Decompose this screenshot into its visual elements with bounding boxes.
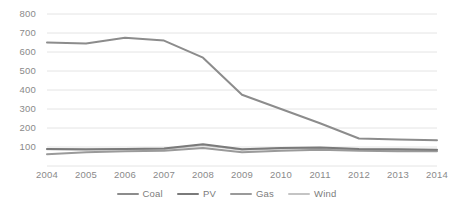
x-axis-tick-label: 2012 — [348, 170, 370, 180]
y-axis: 100200300400500600700800 — [0, 14, 42, 166]
x-axis-tick-label: 2006 — [114, 170, 136, 180]
y-axis-tick-label: 100 — [20, 142, 36, 152]
chart-legend: CoalPVGasWind — [0, 189, 453, 199]
legend-label: PV — [203, 189, 216, 199]
x-axis-tick-label: 2011 — [309, 170, 330, 180]
series-line-coal — [47, 38, 437, 141]
line-chart: 100200300400500600700800 200420052006200… — [0, 0, 453, 211]
y-axis-tick-label: 700 — [20, 28, 36, 38]
legend-label: Coal — [143, 189, 163, 199]
legend-swatch-pv-icon — [177, 193, 199, 196]
legend-item-coal[interactable]: Coal — [117, 189, 163, 199]
x-axis-tick-label: 2010 — [270, 170, 292, 180]
x-axis-tick-label: 2007 — [153, 170, 175, 180]
x-axis-tick-label: 2009 — [231, 170, 253, 180]
legend-swatch-wind-icon — [288, 193, 310, 196]
y-axis-tick-label: 800 — [20, 9, 36, 19]
x-axis: 2004200520062007200820092010201120122013… — [47, 170, 437, 184]
legend-swatch-coal-icon — [117, 193, 139, 196]
x-axis-tick-label: 2013 — [387, 170, 409, 180]
y-axis-tick-label: 200 — [20, 123, 36, 133]
y-axis-tick-label: 400 — [20, 85, 36, 95]
plot-area — [47, 14, 437, 166]
legend-label: Wind — [314, 189, 336, 199]
x-axis-tick-label: 2004 — [36, 170, 58, 180]
y-axis-tick-label: 600 — [20, 47, 36, 57]
series-line-pv — [47, 144, 437, 150]
legend-swatch-gas-icon — [230, 193, 252, 196]
legend-item-wind[interactable]: Wind — [288, 189, 336, 199]
legend-label: Gas — [256, 189, 274, 199]
y-axis-tick-label: 500 — [20, 66, 36, 76]
legend-item-gas[interactable]: Gas — [230, 189, 274, 199]
x-axis-tick-label: 2005 — [75, 170, 97, 180]
x-axis-tick-label: 2014 — [426, 170, 448, 180]
y-axis-tick-label: 300 — [20, 104, 36, 114]
legend-item-pv[interactable]: PV — [177, 189, 216, 199]
series-lines — [47, 14, 437, 166]
x-axis-tick-label: 2008 — [192, 170, 214, 180]
